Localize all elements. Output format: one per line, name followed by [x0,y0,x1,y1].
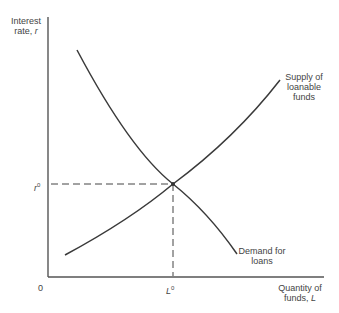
y-axis-label-line2: rate, r [8,26,44,36]
equilibrium-quantity-label: L0 [166,283,174,296]
demand-label: Demand for loans [236,246,288,266]
y-axis-label: Interest rate, r [8,16,44,36]
x-axis-label-line2: funds, L [272,293,328,303]
supply-label-line2: loanable [278,82,330,92]
diagram-canvas [0,0,339,313]
equilibrium-rate-label: r0 [34,180,40,193]
supply-label-line1: Supply of [278,72,330,82]
supply-label: Supply of loanable funds [278,72,330,102]
supply-label-line3: funds [278,92,330,102]
demand-label-line1: Demand for [236,246,288,256]
origin-label: 0 [38,283,43,293]
y-axis-label-line1: Interest [8,16,44,26]
x-axis-label: Quantity of funds, L [272,283,328,303]
x-axis-label-line1: Quantity of [272,283,328,293]
demand-label-line2: loans [236,256,288,266]
equilibrium-point [171,182,175,186]
